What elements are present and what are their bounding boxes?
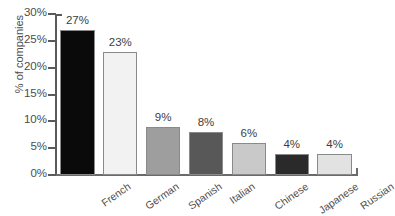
bar-french[interactable] — [60, 30, 94, 175]
bar-value-label: 23% — [98, 36, 142, 48]
x-label-german: German — [143, 180, 181, 212]
bar-italian[interactable] — [189, 132, 223, 175]
x-label-italian: Italian — [227, 180, 257, 206]
bar-value-label: 27% — [55, 14, 99, 26]
y-tick-label: 10% — [0, 113, 47, 125]
x-axis-end-cap — [356, 168, 358, 176]
y-tick-mark — [48, 147, 56, 149]
y-tick-mark — [48, 40, 56, 42]
x-label-chinese: Chinese — [272, 180, 310, 212]
bar-german[interactable] — [103, 52, 137, 175]
bar-value-label: 9% — [141, 111, 185, 123]
bar-value-label: 8% — [184, 116, 228, 128]
bar-value-label: 4% — [313, 138, 357, 150]
x-axis-labels: FrenchGermanSpanishItalianChineseJapanes… — [0, 176, 367, 214]
y-tick-mark — [48, 120, 56, 122]
bars-layer: 27%23%9%8%6%4%4% — [56, 14, 356, 175]
x-label-french: French — [99, 180, 133, 209]
y-tick-mark — [48, 67, 56, 69]
bar-russian[interactable] — [317, 154, 351, 175]
bar-chinese[interactable] — [232, 143, 266, 175]
y-tick-label: 5% — [0, 140, 47, 152]
y-tick-label: 15% — [0, 87, 47, 99]
bar-japanese[interactable] — [275, 154, 309, 175]
y-tick-label: 25% — [0, 33, 47, 45]
bar-value-label: 4% — [270, 138, 314, 150]
y-tick-mark — [48, 94, 56, 96]
x-label-russian: Russian — [357, 180, 395, 212]
x-label-japanese: Japanese — [316, 180, 360, 216]
x-label-spanish: Spanish — [186, 180, 224, 212]
bar-spanish[interactable] — [146, 127, 180, 175]
y-tick-label: 30% — [0, 6, 47, 18]
bar-value-label: 6% — [227, 127, 271, 139]
y-tick-label: 20% — [0, 60, 47, 72]
